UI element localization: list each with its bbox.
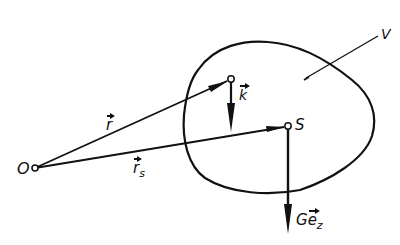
- diagram-canvas: [0, 0, 400, 245]
- k-application-point: [228, 76, 234, 82]
- origin-label: O: [17, 161, 30, 177]
- origin-point: [32, 165, 38, 171]
- r-vector-symbol: r: [106, 118, 112, 133]
- rs-subscript: s: [139, 167, 145, 180]
- center-label: S: [295, 118, 305, 133]
- k-vector-arrowhead: [227, 103, 235, 132]
- gravity-vector-label: Gez: [296, 213, 323, 228]
- r-vector-arrowhead: [208, 81, 228, 92]
- volume-label: V: [381, 27, 391, 41]
- gravity-subscript: z: [317, 219, 323, 232]
- r-vector-line: [35, 81, 227, 168]
- k-vector-symbol: k: [239, 88, 247, 102]
- k-vector-label: k: [239, 88, 247, 102]
- rs-vector-label: rs: [133, 161, 145, 176]
- body-outline: [184, 42, 375, 194]
- rs-vector-arrowhead: [266, 126, 285, 132]
- rs-vector-line: [35, 127, 284, 168]
- gravity-vector-arrowhead: [284, 204, 292, 234]
- gravity-prefix: G: [296, 211, 308, 229]
- center-point-s: [285, 123, 291, 129]
- gravity-unit-symbol: e: [308, 213, 317, 228]
- r-vector-label: r: [106, 118, 112, 133]
